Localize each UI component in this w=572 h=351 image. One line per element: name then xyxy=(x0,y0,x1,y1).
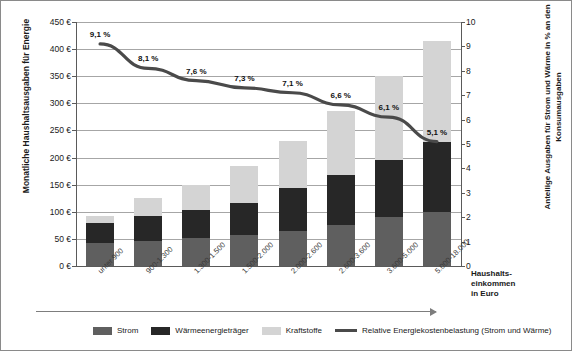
y-axis-right-tick-label: 10 xyxy=(466,17,475,27)
legend-item-label: Wärmeenergieträger xyxy=(175,326,248,335)
plot-area: 0 €50 €100 €150 €200 €250 €300 €350 €400… xyxy=(76,22,461,266)
y-axis-right-tick-label: 5 xyxy=(466,139,471,149)
line-data-label: 8,1 % xyxy=(138,54,158,63)
line-data-label: 7,3 % xyxy=(234,74,254,83)
legend-item[interactable]: Strom xyxy=(93,326,138,335)
legend-color-swatch xyxy=(262,327,281,335)
legend-item[interactable]: Wärmeenergieträger xyxy=(151,326,248,335)
y-axis-left-tick-label: 400 € xyxy=(50,44,71,54)
chart-figure: Monatliche Haushaltsausgaben für Energie… xyxy=(0,0,572,351)
y-axis-right-tick-label: 7 xyxy=(466,90,471,100)
y-axis-right-tick-label: 4 xyxy=(466,163,471,173)
line-data-label: 7,6 % xyxy=(186,67,206,76)
y-axis-left-tick-label: 250 € xyxy=(50,125,71,135)
legend-line-swatch xyxy=(335,329,357,333)
y-axis-left-tick-label: 450 € xyxy=(50,17,71,27)
x-axis-line xyxy=(76,266,462,267)
line-data-label: 5,1 % xyxy=(427,128,447,137)
line-data-label: 6,1 % xyxy=(379,103,399,112)
x-axis-title-line1: Haushalts- xyxy=(471,269,566,279)
y-axis-right-tick-label: 2 xyxy=(466,212,471,222)
legend-color-swatch xyxy=(151,327,170,335)
y-axis-left-title: Monatliche Haushaltsausgaben für Energie xyxy=(21,0,31,231)
y-axis-right-line xyxy=(461,22,462,267)
legend-item[interactable]: Relative Energiekostenbelastung (Strom u… xyxy=(335,326,551,335)
y-axis-right-title: Anteilige Ausgaben für Strom und Wärme i… xyxy=(542,0,564,222)
line-data-label: 9,1 % xyxy=(90,30,110,39)
x-axis-title-line3: in Euro xyxy=(471,289,566,299)
line-data-label: 6,6 % xyxy=(330,91,350,100)
y-axis-left-tick-label: 0 € xyxy=(59,261,71,271)
line-series xyxy=(76,22,461,266)
legend-item-label: Strom xyxy=(117,326,138,335)
x-axis-title-line2: einkommen xyxy=(471,279,566,289)
x-axis-title: Haushalts- einkommen in Euro xyxy=(471,269,566,299)
line-data-label: 7,1 % xyxy=(282,79,302,88)
y-axis-left-tick-label: 100 € xyxy=(50,207,71,217)
legend-item-label: Kraftstoffe xyxy=(286,326,322,335)
y-axis-left-line xyxy=(76,22,77,267)
legend-item-label: Relative Energiekostenbelastung (Strom u… xyxy=(362,326,551,335)
y-axis-right-tick-label: 9 xyxy=(466,41,471,51)
legend-item[interactable]: Kraftstoffe xyxy=(262,326,322,335)
y-axis-left-tick-label: 300 € xyxy=(50,98,71,108)
y-axis-left-tick-label: 200 € xyxy=(50,153,71,163)
chart-legend: StromWärmeenergieträgerKraftstoffeRelati… xyxy=(93,326,551,335)
y-axis-right-tick-label: 3 xyxy=(466,188,471,198)
y-axis-right-tick-label: 6 xyxy=(466,115,471,125)
legend-color-swatch xyxy=(93,327,112,335)
y-axis-left-tick-label: 150 € xyxy=(50,180,71,190)
y-axis-left-tick-label: 50 € xyxy=(54,234,71,244)
y-axis-left-tick-label: 350 € xyxy=(50,71,71,81)
y-axis-right-tick-label: 8 xyxy=(466,66,471,76)
x-axis-direction-arrow-icon xyxy=(36,311,436,312)
